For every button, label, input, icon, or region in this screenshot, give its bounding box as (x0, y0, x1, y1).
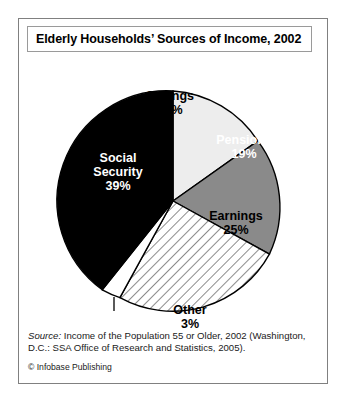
slice-label-savings: Savings 14% (127, 89, 213, 117)
slice-label-other-value: 3% (147, 317, 233, 331)
slice-label-pensions: Pensions 19% (201, 133, 287, 161)
slice-label-earnings-name: Earnings (209, 209, 263, 223)
source-note: Source: Income of the Population 55 or O… (28, 330, 320, 355)
slice-label-social-security: Social Security 39% (73, 151, 163, 193)
slice-label-earnings: Earnings 25% (191, 209, 281, 237)
slice-label-social-security-value: 39% (73, 179, 163, 193)
source-body: Income of the Population 55 or Older, 20… (28, 330, 306, 353)
publisher-credit: © Infobase Publishing (28, 362, 320, 373)
slice-label-other-name: Other (173, 303, 206, 317)
source-label: Source: (28, 330, 61, 341)
slice-label-earnings-value: 25% (191, 223, 281, 237)
page-title: Elderly Households’ Sources of Income, 2… (36, 32, 301, 46)
figure-frame: Elderly Households’ Sources of Income, 2… (18, 18, 328, 384)
source-block: Source: Income of the Population 55 or O… (28, 330, 320, 373)
slice-label-pensions-name: Pensions (216, 133, 272, 147)
slice-label-savings-value: 14% (127, 103, 213, 117)
pie-chart: Savings 14% Pensions 19% Earnings 25% So… (19, 53, 327, 321)
slice-label-savings-name: Savings (146, 89, 194, 103)
slice-label-other: Other 3% (147, 303, 233, 331)
chart-title-box: Elderly Households’ Sources of Income, 2… (27, 26, 312, 52)
slice-label-social-security-name-1: Social (100, 151, 137, 165)
slice-label-pensions-value: 19% (201, 147, 287, 161)
slice-label-social-security-name-2: Security (73, 165, 163, 179)
